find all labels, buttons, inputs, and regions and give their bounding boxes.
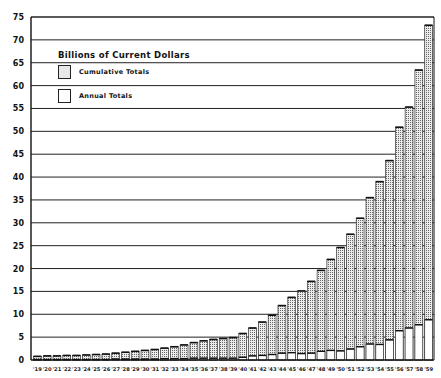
x-tick-label: '45 [287,366,296,372]
bar-group [395,127,403,360]
bar-group [210,339,218,360]
cumulative-bar [356,218,364,360]
cumulative-bar [190,343,198,360]
x-tick-label: '29 [131,366,140,372]
stippled-swatch-icon [58,65,71,79]
bar-group [258,322,266,360]
annual-bar [298,354,306,360]
y-tick-label: 20 [13,265,25,274]
x-tick-label: '34 [180,366,189,372]
y-tick-label: 30 [13,219,25,228]
bar-group [288,297,296,360]
bar-group [346,234,354,360]
cumulative-bar [200,341,208,360]
y-tick-label: 70 [13,36,25,45]
cumulative-bar [405,107,413,360]
legend-item-annual: Annual Totals [58,89,132,103]
y-tick-label: 65 [13,59,25,68]
legend-item-cumulative: Cumulative Totals [58,65,149,79]
cumulative-bar [258,322,266,360]
cumulative-bar [395,127,403,360]
bar-group [180,345,188,360]
annual-bar [327,350,335,360]
x-tick-label: '35 [189,366,198,372]
annual-bar [268,355,276,360]
x-tick-label: '27 [111,366,120,372]
bar-group [425,25,433,360]
annual-bar [425,320,433,360]
x-tick-label: '21 [53,366,62,372]
x-tick-label: '23 [72,366,81,372]
annual-bar [337,351,345,360]
x-tick-label: '51 [346,366,355,372]
cumulative-bar [317,270,325,360]
bar-group [356,218,364,360]
x-tick-label: '58 [414,366,423,372]
x-axis-tick-labels: '19'20'21'22'23'24'25'26'27'28'29'30'31'… [33,366,433,372]
y-tick-label: 0 [18,356,24,365]
x-tick-label: '19 [33,366,42,372]
x-tick-label: '56 [395,366,404,372]
x-tick-label: '50 [336,366,345,372]
x-tick-label: '54 [375,366,384,372]
annual-bar [395,331,403,360]
cumulative-bar [386,161,394,360]
cumulative-bar [376,182,384,360]
cumulative-bar [239,333,247,360]
x-tick-label: '53 [366,366,375,372]
y-tick-label: 10 [13,310,25,319]
x-tick-label: '20 [43,366,52,372]
bar-group [112,353,120,360]
x-tick-label: '41 [248,366,257,372]
x-tick-label: '37 [209,366,218,372]
cumulative-bar [346,234,354,360]
cumulative-bar [415,70,423,360]
annual-bar [317,351,325,360]
annual-bar [386,340,394,360]
y-tick-label: 15 [13,287,25,296]
bar-group [268,315,276,360]
x-tick-label: '43 [268,366,277,372]
bar-group [337,247,345,360]
x-tick-label: '32 [160,366,169,372]
cumulative-bar [278,306,286,360]
cumulative-bar [307,281,315,360]
cumulative-bar [366,198,374,360]
y-tick-label: 5 [18,333,24,342]
annual-bar [415,325,423,360]
bar-group [102,354,110,360]
cumulative-bar [298,291,306,360]
x-tick-label: '31 [150,366,159,372]
y-tick-label: 40 [13,173,25,182]
annual-bar [405,328,413,360]
annual-bar [356,347,364,360]
x-tick-label: '52 [356,366,365,372]
x-tick-label: '40 [238,366,247,372]
bar-group [151,349,159,360]
bar-group [298,291,306,360]
y-tick-label: 60 [13,82,25,91]
cumulative-bar [219,339,227,360]
bar-group [200,341,208,360]
annual-bar [288,353,296,360]
annual-bar [307,353,315,360]
x-tick-label: '24 [82,366,91,372]
x-tick-label: '47 [307,366,316,372]
annual-bar [376,344,384,360]
y-tick-label: 50 [13,127,25,136]
bar-group [405,107,413,360]
cumulative-bar [268,315,276,360]
x-tick-label: '38 [219,366,228,372]
cumulative-bar [425,25,433,360]
white-swatch-icon [58,89,71,103]
annual-bar [278,353,286,360]
cumulative-bar [229,338,237,360]
y-tick-label: 75 [13,13,25,22]
bar-group [190,343,198,360]
bar-group [415,70,423,360]
x-tick-label: '30 [141,366,150,372]
cumulative-bar [288,297,296,360]
bar-group [386,161,394,360]
y-axis-tick-labels: 051015202530354045505560657075 [13,13,25,365]
annual-bar [346,349,354,360]
